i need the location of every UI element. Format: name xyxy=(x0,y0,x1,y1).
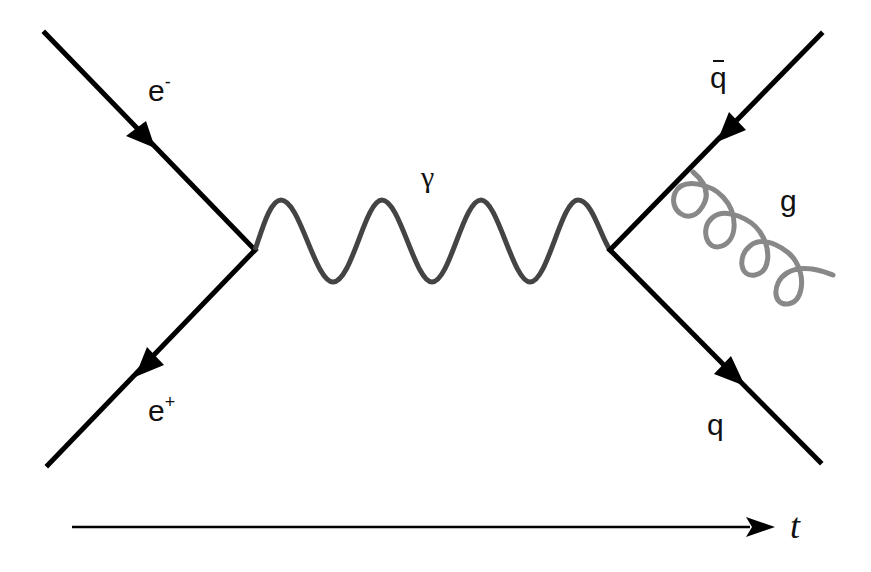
time-symbol: t xyxy=(790,506,800,546)
gluon-symbol: g xyxy=(780,184,797,217)
photon-label: γ xyxy=(421,162,434,192)
positron-line xyxy=(48,250,255,465)
photon-wave xyxy=(255,200,610,282)
quark-label: q xyxy=(707,410,724,440)
antiquark-label: q xyxy=(710,63,727,93)
electron-label: e- xyxy=(148,75,171,106)
positron-symbol: e xyxy=(148,394,165,427)
positron-label: e+ xyxy=(148,395,175,426)
time-axis xyxy=(72,517,775,537)
time-label: t xyxy=(790,508,800,544)
feynman-diagram: e- e+ γ q g q t xyxy=(0,0,871,572)
antiquark-symbol: q xyxy=(710,63,727,93)
positron-charge: + xyxy=(165,392,176,412)
time-arrow-icon xyxy=(746,517,775,537)
quark-symbol: q xyxy=(707,408,724,441)
photon-symbol: γ xyxy=(421,160,434,193)
diagram-graphics xyxy=(0,0,871,572)
gluon-coil xyxy=(674,172,833,304)
electron-symbol: e xyxy=(148,74,165,107)
electron-charge: - xyxy=(165,72,171,92)
gluon-label: g xyxy=(780,186,797,216)
electron-line xyxy=(45,33,255,250)
electron-arrow-icon xyxy=(126,121,155,148)
